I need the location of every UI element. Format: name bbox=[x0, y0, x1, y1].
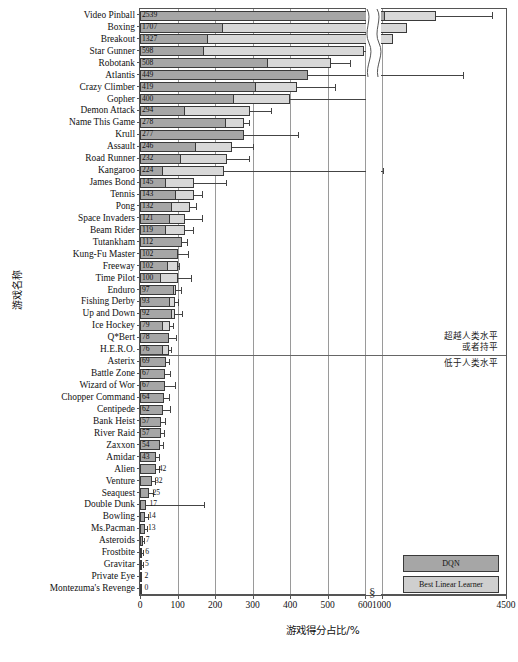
bar-value-label: 57 bbox=[140, 417, 150, 425]
chart-row: Beam Rider119 bbox=[140, 224, 506, 236]
bar-best-linear-learner bbox=[140, 11, 385, 21]
chart-row: Venture32 bbox=[140, 475, 506, 487]
error-bar-cap bbox=[163, 442, 164, 449]
x-tick bbox=[215, 595, 216, 599]
game-name-label: Amidar bbox=[106, 452, 135, 462]
game-name-label: Fishing Derby bbox=[81, 296, 135, 306]
error-bar-cap bbox=[176, 335, 177, 342]
chart-row: Amidar43 bbox=[140, 451, 506, 463]
x-tick bbox=[506, 595, 507, 599]
bar-best-linear-learner bbox=[140, 82, 256, 92]
bar-value-label: 97 bbox=[140, 286, 150, 294]
error-bar-cap bbox=[164, 430, 165, 437]
bar-value-label: 25 bbox=[151, 489, 160, 497]
figure-root: 游戏名称 Video Pinball2539Boxing1707Breakout… bbox=[0, 0, 518, 662]
x-tick-label: 500 bbox=[320, 600, 334, 611]
bar-value-label: 2 bbox=[144, 572, 149, 580]
chart-row: Kung-Fu Master102 bbox=[140, 248, 506, 260]
error-bar-cap bbox=[171, 347, 172, 354]
game-name-label: Pong bbox=[116, 201, 135, 211]
error-bar-cap bbox=[159, 454, 160, 461]
axis-break-squiggle bbox=[363, 9, 383, 594]
bar-best-linear-learner bbox=[140, 130, 244, 140]
game-name-label: Assault bbox=[107, 141, 135, 151]
error-bar bbox=[190, 207, 197, 208]
chart-row: Name This Game278 bbox=[140, 116, 506, 128]
game-name-label: Road Runner bbox=[85, 153, 135, 163]
error-bar bbox=[297, 87, 335, 88]
annotation-above-human: 超越人类水平或者持平 bbox=[444, 331, 498, 353]
game-name-label: Battle Zone bbox=[91, 368, 135, 378]
error-bar-cap bbox=[204, 502, 205, 509]
chart-row: Krull277 bbox=[140, 128, 506, 140]
bar-value-label: 449 bbox=[140, 71, 153, 79]
chart-row: Ice Hockey79 bbox=[140, 319, 506, 331]
error-bar-cap bbox=[193, 227, 194, 234]
error-bar bbox=[227, 159, 249, 160]
annotation-below-human: 低于人类水平 bbox=[444, 358, 498, 369]
error-bar bbox=[244, 135, 298, 136]
error-bar-cap bbox=[226, 180, 227, 187]
chart-row: Zaxxon54 bbox=[140, 439, 506, 451]
error-bar-cap bbox=[178, 299, 179, 306]
game-name-label: Demon Attack bbox=[81, 105, 135, 115]
error-bar bbox=[436, 16, 492, 17]
bar-best-linear-learner bbox=[140, 464, 156, 474]
error-bar-cap bbox=[463, 72, 464, 79]
error-bar-cap bbox=[181, 287, 182, 294]
game-name-label: Tutankham bbox=[93, 237, 135, 247]
bar-value-label: 14 bbox=[147, 512, 156, 520]
bar-value-label: 102 bbox=[140, 262, 153, 270]
chart-row: Fishing Derby93 bbox=[140, 296, 506, 308]
bar-value-label: 7 bbox=[145, 536, 150, 544]
chart-row: Tutankham112 bbox=[140, 236, 506, 248]
error-bar bbox=[185, 230, 193, 231]
annotation-above-human-line2: 或者持平 bbox=[444, 342, 498, 353]
chart-row: James Bond145 bbox=[140, 176, 506, 188]
game-name-label: Q*Bert bbox=[107, 332, 135, 342]
x-tick bbox=[365, 595, 366, 599]
chart-row: Chopper Command64 bbox=[140, 391, 506, 403]
chart-row: Enduro97 bbox=[140, 284, 506, 296]
plot-area: Video Pinball2539Boxing1707Breakout1327S… bbox=[139, 8, 507, 595]
x-tick bbox=[382, 595, 383, 599]
chart-row: Freeway102 bbox=[140, 260, 506, 272]
chart-row: Bowling14 bbox=[140, 510, 506, 522]
error-bar bbox=[163, 410, 170, 411]
game-name-label: Freeway bbox=[103, 261, 135, 271]
error-bar bbox=[185, 219, 202, 220]
bar-value-label: 1707 bbox=[140, 23, 157, 31]
bar-value-label: 76 bbox=[140, 345, 150, 353]
legend-label-best-linear-learner: Best Linear Learner bbox=[419, 580, 483, 589]
game-name-label: Beam Rider bbox=[90, 225, 135, 235]
bar-value-label: 246 bbox=[140, 142, 153, 150]
game-name-label: Space Invaders bbox=[78, 213, 135, 223]
error-bar-cap bbox=[298, 132, 299, 139]
error-bar bbox=[165, 386, 174, 387]
bar-best-linear-learner bbox=[140, 94, 234, 104]
legend-item-best-linear-learner: Best Linear Learner bbox=[403, 576, 499, 593]
game-name-label: Ice Hockey bbox=[92, 320, 135, 330]
bar-value-label: 277 bbox=[140, 130, 153, 138]
bar-value-label: 224 bbox=[140, 166, 153, 174]
bar-value-label: 79 bbox=[140, 321, 150, 329]
x-tick-label: 300 bbox=[245, 600, 259, 611]
error-bar-cap bbox=[170, 371, 171, 378]
x-axis-label: 游戏得分占比/% bbox=[139, 622, 507, 637]
game-name-label: Robotank bbox=[99, 58, 135, 68]
x-tick-label: 600 bbox=[358, 600, 372, 611]
error-bar-cap bbox=[271, 108, 272, 115]
bar-value-label: 54 bbox=[140, 441, 150, 449]
chart-row: Video Pinball2539 bbox=[140, 9, 506, 21]
game-name-label: H.E.R.O. bbox=[100, 344, 135, 354]
game-name-label: Video Pinball bbox=[84, 10, 135, 20]
bar-best-linear-learner bbox=[140, 488, 149, 498]
error-bar bbox=[178, 254, 188, 255]
game-name-label: Alien bbox=[114, 464, 135, 474]
chart-row: Kangaroo224 bbox=[140, 164, 506, 176]
game-name-label: Gopher bbox=[107, 94, 135, 104]
bar-value-label: 2539 bbox=[140, 11, 157, 19]
error-bar bbox=[178, 278, 191, 279]
error-bar-cap bbox=[173, 323, 174, 330]
y-axis-label: 游戏名称 bbox=[9, 260, 24, 320]
